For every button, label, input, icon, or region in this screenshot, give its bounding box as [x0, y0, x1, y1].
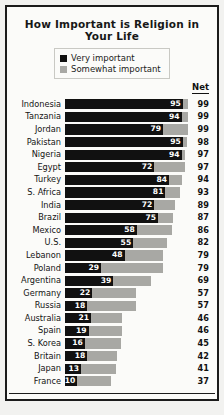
bar-value-very-important: 94 [169, 112, 182, 122]
row-net-value: 57 [189, 301, 209, 310]
row-country-label: Turkey [13, 175, 65, 184]
bar-value-very-important: 95 [170, 99, 183, 109]
bar-value-very-important: 84 [157, 175, 170, 185]
chart-row: India7289 [13, 199, 209, 212]
row-net-value: 41 [189, 364, 209, 373]
bar-value-very-important: 29 [88, 263, 101, 273]
row-bar-area: 48 [65, 250, 189, 260]
footnote: Question 83. [9, 394, 215, 397]
bar-value-very-important: 81 [153, 187, 166, 197]
chart-legend: Very important Somewhat important [54, 48, 170, 79]
row-country-label: Germany [13, 289, 65, 298]
bar-value-very-important: 21 [78, 313, 91, 323]
row-net-value: 46 [189, 314, 209, 323]
row-country-label: France [13, 377, 65, 386]
bar-segment-very-important [65, 213, 158, 223]
row-country-label: Mexico [13, 226, 65, 235]
row-bar-area: 75 [65, 213, 189, 223]
net-column-header-label: Net [192, 83, 209, 94]
bar-segment-very-important [65, 124, 163, 134]
chart-row: France1037 [13, 375, 209, 388]
bar-value-very-important: 19 [76, 326, 89, 336]
chart-row: S. Korea1645 [13, 337, 209, 350]
row-country-label: Australia [13, 314, 65, 323]
legend-item-very-important: Very important [60, 53, 164, 63]
row-country-label: Spain [13, 326, 65, 335]
row-net-value: 93 [189, 188, 209, 197]
chart-rows: Indonesia9599Tanzania9499Jordan7999Pakis… [9, 98, 215, 388]
row-net-value: 45 [189, 339, 209, 348]
bar-value-very-important: 18 [75, 301, 88, 311]
row-bar-area: 21 [65, 313, 189, 323]
bar-segment-very-important [65, 187, 165, 197]
row-country-label: Lebanon [13, 251, 65, 260]
bar-segment-very-important [65, 175, 169, 185]
row-bar-area: 72 [65, 200, 189, 210]
row-bar-area: 94 [65, 150, 189, 160]
row-net-value: 87 [189, 213, 209, 222]
chart-row: Mexico5886 [13, 224, 209, 237]
chart-row: Germany2257 [13, 287, 209, 300]
net-column-header: Net [9, 83, 215, 96]
chart-row: Turkey8494 [13, 174, 209, 187]
row-net-value: 37 [189, 377, 209, 386]
chart-page: How Important is Religion in Your Life V… [0, 0, 224, 415]
bar-segment-very-important [65, 112, 182, 122]
row-country-label: U.S. [13, 238, 65, 247]
bar-value-very-important: 16 [72, 338, 85, 348]
row-country-label: Pakistan [13, 138, 65, 147]
row-net-value: 46 [189, 326, 209, 335]
bar-value-very-important: 55 [121, 238, 134, 248]
row-net-value: 98 [189, 138, 209, 147]
legend-swatch-somewhat-important-icon [60, 66, 67, 73]
chart-row: Brazil7587 [13, 211, 209, 224]
chart-row: Indonesia9599 [13, 98, 209, 111]
row-net-value: 57 [189, 289, 209, 298]
chart-frame: How Important is Religion in Your Life V… [5, 5, 219, 401]
row-country-label: Japan [13, 364, 65, 373]
chart-row: Jordan7999 [13, 123, 209, 136]
row-net-value: 79 [189, 264, 209, 273]
row-bar-area: 19 [65, 326, 189, 336]
row-bar-area: 22 [65, 288, 189, 298]
row-bar-area: 18 [65, 301, 189, 311]
row-bar-area: 39 [65, 276, 189, 286]
chart-row: Spain1946 [13, 325, 209, 338]
row-bar-area: 29 [65, 263, 189, 273]
bar-value-very-important: 95 [170, 137, 183, 147]
row-net-value: 99 [189, 112, 209, 121]
chart-row: S. Africa8193 [13, 186, 209, 199]
row-country-label: Tanzania [13, 112, 65, 121]
row-bar-area: 95 [65, 99, 189, 109]
bar-value-very-important: 72 [142, 200, 155, 210]
row-net-value: 79 [189, 251, 209, 260]
bar-segment-very-important [65, 137, 183, 147]
bar-value-very-important: 75 [145, 213, 158, 223]
chart-row: Japan1341 [13, 362, 209, 375]
row-net-value: 42 [189, 352, 209, 361]
row-bar-area: 18 [65, 351, 189, 361]
legend-label-very-important: Very important [71, 53, 135, 63]
row-bar-area: 13 [65, 364, 189, 374]
chart-row: Australia2146 [13, 312, 209, 325]
row-net-value: 97 [189, 150, 209, 159]
row-country-label: S. Africa [13, 188, 65, 197]
bar-segment-very-important [65, 99, 183, 109]
chart-row: Lebanon4879 [13, 249, 209, 262]
chart-row: Argentina3969 [13, 274, 209, 287]
legend-swatch-very-important-icon [60, 55, 67, 62]
chart-row: Britain1842 [13, 350, 209, 363]
row-bar-area: 84 [65, 175, 189, 185]
chart-row: Russia1857 [13, 300, 209, 313]
legend-label-somewhat-important: Somewhat important [71, 64, 161, 74]
row-bar-area: 55 [65, 238, 189, 248]
chart-inner: How Important is Religion in Your Life V… [9, 9, 215, 397]
chart-row: Tanzania9499 [13, 111, 209, 124]
row-bar-area: 81 [65, 187, 189, 197]
row-country-label: India [13, 201, 65, 210]
row-country-label: Russia [13, 301, 65, 310]
row-bar-area: 95 [65, 137, 189, 147]
bar-value-very-important: 10 [65, 376, 78, 386]
bar-value-very-important: 72 [142, 162, 155, 172]
row-bar-area: 79 [65, 124, 189, 134]
